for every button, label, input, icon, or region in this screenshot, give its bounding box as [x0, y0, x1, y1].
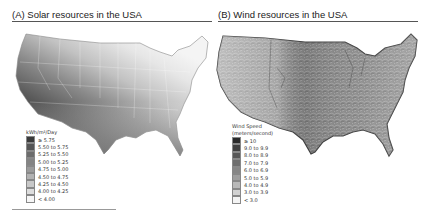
legend-item: 4.50 to 4.75 [26, 173, 68, 180]
legend-item: 4.0 to 4.9 [232, 181, 273, 188]
legend-item: 4.25 to 4.50 [26, 180, 68, 187]
legend-swatch [26, 143, 35, 150]
legend-swatch [232, 159, 241, 166]
legend-swatch [232, 144, 241, 151]
legend-item: 6.0 to 6.9 [232, 167, 273, 174]
legend-swatch [232, 167, 241, 174]
wind-title: (B) Wind resources in the USA [218, 9, 347, 20]
legend-item: < 4.00 [26, 195, 68, 202]
legend-item: 4.75 to 5.00 [26, 166, 68, 173]
legend-item: 4.00 to 4.25 [26, 188, 68, 195]
wind-legend-title: Wind Speed [232, 123, 273, 129]
solar-legend: kWh/m²/Day ≥ 5.75 5.50 to 5.75 5.25 to 5… [26, 129, 68, 203]
legend-item: ≥ 5.75 [26, 136, 68, 143]
legend-swatch [232, 137, 241, 144]
legend-item: 5.0 to 5.9 [232, 174, 273, 181]
title-underline [12, 21, 212, 22]
legend-swatch [232, 181, 241, 188]
legend-swatch [26, 188, 35, 195]
wind-legend: Wind Speed (meters/second) ≥ 10 9.0 to 9… [232, 123, 273, 204]
legend-item: 7.0 to 7.9 [232, 159, 273, 166]
legend-swatch [26, 195, 35, 202]
legend-item: < 3.0 [232, 196, 273, 203]
legend-item: 9.0 to 9.9 [232, 144, 273, 151]
legend-swatch [232, 174, 241, 181]
legend-item: 5.25 to 5.50 [26, 151, 68, 158]
legend-swatch [26, 173, 35, 180]
legend-swatch [26, 136, 35, 143]
legend-swatch [232, 152, 241, 159]
legend-swatch [26, 166, 35, 173]
solar-title: (A) Solar resources in the USA [12, 9, 142, 20]
legend-item: 8.0 to 8.9 [232, 152, 273, 159]
legend-item: 3.0 to 3.9 [232, 189, 273, 196]
solar-legend-title: kWh/m²/Day [26, 129, 68, 135]
wind-legend-units: (meters/second) [232, 130, 273, 136]
legend-swatch [232, 196, 241, 203]
legend-swatch [26, 180, 35, 187]
legend-item: 5.00 to 5.25 [26, 158, 68, 165]
legend-swatch [26, 158, 35, 165]
title-underline [218, 21, 418, 22]
legend-swatch [232, 189, 241, 196]
legend-item: 5.50 to 5.75 [26, 143, 68, 150]
legend-swatch [26, 151, 35, 158]
legend-item: ≥ 10 [232, 137, 273, 144]
bottom-divider [12, 209, 116, 210]
